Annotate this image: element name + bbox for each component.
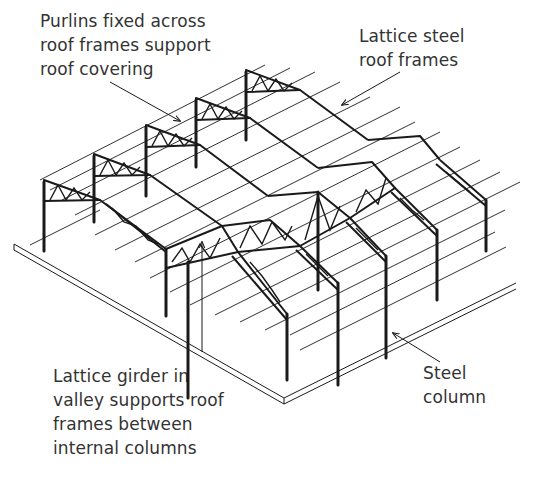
lattice-roof-frames (44, 70, 486, 320)
lattice-frames-arrow (342, 72, 400, 105)
structure-drawing (0, 0, 541, 484)
column-arrow (393, 333, 440, 362)
leader-lines (110, 72, 440, 362)
purlins-arrow (110, 82, 180, 121)
